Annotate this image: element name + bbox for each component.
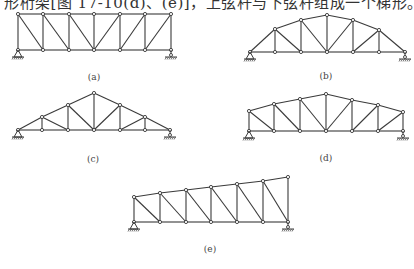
truss-member [326, 94, 352, 100]
truss-member [211, 187, 237, 222]
truss-c-triangular [12, 91, 176, 139]
truss-member [327, 15, 353, 20]
truss-member [160, 190, 186, 193]
joint-node [143, 48, 146, 51]
truss-member [275, 29, 301, 52]
joint-node [235, 220, 238, 223]
joint-node [209, 185, 212, 188]
truss-member [249, 111, 274, 131]
joint-node [351, 50, 354, 53]
label-d: (d) [320, 153, 333, 163]
truss-member [94, 105, 120, 130]
joint-node [16, 12, 19, 15]
truss-member [18, 14, 43, 50]
joint-node [350, 98, 353, 101]
joint-node [350, 129, 353, 132]
truss-member [145, 117, 170, 130]
truss-member [249, 104, 274, 111]
truss-member [42, 117, 68, 130]
truss-member [352, 100, 378, 105]
truss-member [186, 190, 211, 222]
truss-member [211, 184, 237, 187]
truss-member [134, 193, 160, 197]
joint-node [92, 48, 95, 51]
truss-member [120, 105, 145, 117]
joint-node [235, 182, 238, 185]
truss-member [160, 193, 186, 222]
truss-diagram: (a) (b) (c) (d) (e) [0, 0, 414, 269]
roller-support-icon [287, 226, 290, 229]
joint-node [143, 128, 146, 131]
joint-node [298, 97, 301, 100]
roller-support-icon [402, 135, 405, 138]
truss-member [300, 99, 326, 131]
truss-member [68, 93, 94, 105]
label-b: (b) [320, 71, 333, 81]
joint-node [299, 18, 302, 21]
label-a: (a) [88, 72, 100, 82]
label-e: (e) [204, 244, 216, 254]
truss-member [300, 94, 326, 99]
joint-node [376, 129, 379, 132]
truss-member [327, 20, 353, 52]
joint-node [325, 13, 328, 16]
truss-member [353, 30, 379, 52]
joint-node [158, 191, 161, 194]
joint-node [299, 50, 302, 53]
joint-node [272, 129, 275, 132]
joint-node [184, 220, 187, 223]
joint-node [118, 128, 121, 131]
truss-member [353, 20, 379, 30]
joint-node [92, 128, 95, 131]
joint-node [261, 179, 264, 182]
joint-node [67, 48, 70, 51]
joint-node [184, 188, 187, 191]
truss-member [326, 100, 352, 131]
joint-node [92, 91, 95, 94]
joint-node [376, 103, 379, 106]
joint-node [118, 12, 121, 15]
truss-member [42, 105, 68, 117]
truss-member [145, 14, 171, 50]
joint-node [132, 195, 135, 198]
joint-node [40, 128, 43, 131]
truss-e-trapezoidal [128, 175, 294, 231]
joint-node [324, 92, 327, 95]
label-c: (c) [87, 154, 99, 164]
truss-member [94, 14, 120, 50]
joint-node [41, 12, 44, 15]
joint-node [143, 12, 146, 15]
truss-member [94, 93, 120, 105]
truss-member [237, 181, 263, 184]
truss-member [68, 105, 94, 130]
truss-member [18, 117, 42, 130]
joint-node [325, 50, 328, 53]
joint-node [40, 115, 43, 118]
joint-node [324, 129, 327, 132]
truss-a-parallel-chord [12, 12, 177, 59]
truss-member [352, 105, 378, 131]
joint-node [143, 115, 146, 118]
joint-node [377, 28, 380, 31]
joint-node [66, 103, 69, 106]
truss-member [274, 104, 300, 131]
truss-member [186, 187, 211, 190]
joint-node [401, 110, 404, 113]
truss-member [43, 14, 69, 50]
joint-node [41, 48, 44, 51]
joint-node [272, 102, 275, 105]
roller-support-icon [169, 134, 172, 137]
truss-member [120, 14, 145, 50]
joint-node [209, 220, 212, 223]
joint-node [247, 109, 250, 112]
truss-member [379, 30, 405, 52]
joint-node [92, 12, 95, 15]
truss-member [263, 181, 288, 222]
joint-node [273, 50, 276, 53]
joint-node [261, 220, 264, 223]
truss-member [263, 177, 288, 181]
truss-member [274, 99, 300, 104]
truss-member [250, 29, 275, 52]
truss-member [237, 184, 263, 222]
truss-member [301, 20, 327, 52]
